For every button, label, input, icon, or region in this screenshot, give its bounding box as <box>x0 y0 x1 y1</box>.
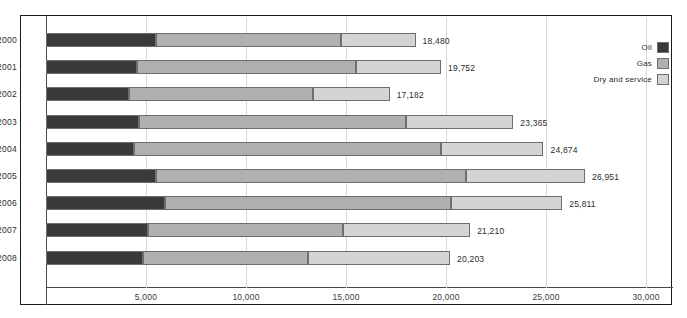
plot-area: 18,48019,75217,18223,36524,87426,95125,8… <box>46 17 646 287</box>
x-axis-line <box>46 287 673 288</box>
bar-segment-gas <box>139 115 406 129</box>
bar-segment-gas <box>129 87 313 101</box>
legend-swatch <box>657 74 669 85</box>
x-tick-label: 5,000 <box>135 292 157 302</box>
x-tick-label: 20,000 <box>432 292 459 302</box>
chart-legend: OilGasDry and service <box>559 40 669 88</box>
bar-segment-oil <box>46 223 148 237</box>
bar-segment-oil <box>46 251 143 265</box>
year-label: 2006 <box>0 198 17 208</box>
bar-segment-dry-and-service <box>406 115 513 129</box>
bar-segment-dry-and-service <box>466 169 585 183</box>
legend-swatch <box>657 42 669 53</box>
year-label: 2001 <box>0 62 17 72</box>
bar-total-label: 21,210 <box>477 226 504 236</box>
year-label: 2004 <box>0 144 17 154</box>
legend-item: Oil <box>559 40 669 54</box>
bar-segment-dry-and-service <box>341 33 416 47</box>
bar-segment-oil <box>46 87 129 101</box>
bar-total-label: 25,811 <box>569 199 596 209</box>
bar-segment-oil <box>46 60 137 74</box>
x-tick-label: 25,000 <box>532 292 559 302</box>
bar-segment-gas <box>156 169 466 183</box>
legend-item: Dry and service <box>559 72 669 86</box>
year-label: 2005 <box>0 171 17 181</box>
bar-segment-dry-and-service <box>308 251 450 265</box>
bar-segment-gas <box>137 60 356 74</box>
year-label: 2002 <box>0 89 17 99</box>
bar-segment-gas <box>134 142 441 156</box>
bar-segment-dry-and-service <box>343 223 470 237</box>
bar-segment-oil <box>46 115 139 129</box>
top-edge-artifact <box>0 0 260 11</box>
bar-segment-dry-and-service <box>356 60 441 74</box>
bar-segment-gas <box>148 223 343 237</box>
gridline <box>546 17 547 288</box>
x-tick-label: 15,000 <box>332 292 359 302</box>
x-tick-label: 30,000 <box>632 292 659 302</box>
bar-segment-dry-and-service <box>451 196 562 210</box>
bar-total-label: 23,365 <box>520 118 547 128</box>
stacked-bar-chart: 18,48019,75217,18223,36524,87426,95125,8… <box>20 15 672 305</box>
bar-segment-gas <box>165 196 451 210</box>
legend-swatch <box>657 58 669 69</box>
legend-item: Gas <box>559 56 669 70</box>
bar-total-label: 24,874 <box>550 145 577 155</box>
bar-segment-gas <box>143 251 308 265</box>
bar-total-label: 20,203 <box>457 254 484 264</box>
bar-total-label: 17,182 <box>397 90 424 100</box>
bar-total-label: 19,752 <box>448 63 475 73</box>
year-label: 2003 <box>0 117 17 127</box>
bar-segment-oil <box>46 142 134 156</box>
legend-item-label: Gas <box>637 59 652 68</box>
legend-item-label: Oil <box>642 43 652 52</box>
bar-segment-oil <box>46 169 156 183</box>
year-label: 2007 <box>0 225 17 235</box>
legend-item-label: Dry and service <box>593 75 652 84</box>
bar-segment-oil <box>46 33 156 47</box>
bar-total-label: 18,480 <box>423 36 450 46</box>
bar-segment-dry-and-service <box>441 142 543 156</box>
x-tick-label: 10,000 <box>232 292 259 302</box>
bar-total-label: 26,951 <box>592 172 619 182</box>
year-label: 2000 <box>0 35 17 45</box>
bar-segment-oil <box>46 196 165 210</box>
bar-segment-gas <box>156 33 341 47</box>
bar-segment-dry-and-service <box>313 87 390 101</box>
year-label: 2008 <box>0 253 17 263</box>
